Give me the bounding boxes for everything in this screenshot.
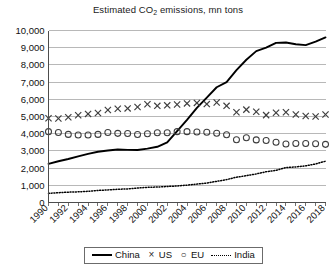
y-axis-tick-labels: 10,0009,0008,0007,0006,0005,0004,0003,00… — [15, 25, 44, 208]
data-point-us — [243, 107, 249, 113]
data-point-us — [65, 114, 71, 120]
data-point-eu — [323, 141, 329, 147]
x-axis-tick-labels: 1990199219941996199820002002200420062008… — [27, 202, 327, 225]
data-point-eu — [154, 130, 160, 136]
legend-item-china[interactable]: China — [92, 250, 140, 260]
x-tick-label: 2008 — [205, 202, 228, 225]
data-point-us — [115, 106, 121, 112]
data-point-eu — [293, 141, 299, 147]
dotted-line-icon — [211, 255, 231, 256]
data-point-eu — [85, 132, 91, 138]
data-series-group — [45, 37, 328, 193]
x-tick-label: 2012 — [245, 202, 268, 225]
x-tick-label: 2004 — [166, 202, 189, 225]
y-tick-label: 8,000 — [21, 59, 45, 70]
legend-item-eu[interactable]: ○ EU — [179, 250, 204, 260]
x-tick-label: 2016 — [284, 202, 307, 225]
x-tick-label: 2000 — [126, 202, 149, 225]
legend-label-india: India — [234, 250, 255, 260]
x-tick-label: 2014 — [265, 202, 288, 225]
data-point-us — [214, 99, 220, 105]
data-point-us — [95, 110, 101, 116]
data-point-eu — [194, 129, 200, 135]
data-point-us — [105, 107, 111, 113]
x-tick-label: 2002 — [146, 202, 169, 225]
data-point-us — [283, 109, 289, 115]
circle-marker-icon: ○ — [179, 250, 188, 260]
data-point-eu — [283, 141, 289, 147]
data-point-eu — [135, 132, 141, 138]
x-marker-icon: × — [147, 250, 156, 260]
y-tick-label: 2,000 — [21, 163, 45, 174]
data-point-us — [253, 109, 259, 115]
data-point-eu — [95, 131, 101, 137]
x-tick-label: 1990 — [27, 202, 50, 225]
chart-legend: China × US ○ EU India — [84, 247, 263, 264]
data-point-us — [75, 112, 81, 118]
data-point-eu — [65, 131, 71, 137]
data-point-eu — [263, 138, 269, 144]
x-tick-label: 2018 — [304, 202, 327, 225]
co2-emissions-chart: Estimated CO2 emissions, mn tons 10,0009… — [0, 0, 336, 279]
legend-label-china: China — [115, 250, 140, 260]
data-point-eu — [233, 137, 239, 143]
data-point-eu — [253, 137, 259, 143]
data-point-us — [144, 101, 150, 107]
data-point-us — [134, 104, 140, 110]
legend-item-india[interactable]: India — [211, 250, 255, 260]
data-point-us — [184, 100, 190, 106]
x-tick-label: 1994 — [67, 202, 90, 225]
data-point-us — [164, 102, 170, 108]
y-tick-label: 4,000 — [21, 128, 45, 139]
data-point-eu — [313, 141, 319, 147]
x-axis-tick-marks — [49, 203, 326, 207]
data-point-us — [223, 103, 229, 109]
y-tick-label: 6,000 — [21, 94, 45, 105]
x-tick-label: 1998 — [106, 202, 129, 225]
x-tick-label: 1996 — [87, 202, 110, 225]
data-point-us — [194, 100, 200, 106]
x-tick-label: 2006 — [185, 202, 208, 225]
data-point-eu — [273, 139, 279, 145]
y-tick-label: 3,000 — [21, 145, 45, 156]
y-tick-label: 9,000 — [21, 42, 45, 53]
x-tick-label: 2010 — [225, 202, 248, 225]
data-point-eu — [55, 129, 61, 135]
data-point-us — [233, 109, 239, 115]
data-point-eu — [164, 130, 170, 136]
legend-label-us: US — [159, 250, 172, 260]
data-point-us — [204, 101, 210, 107]
data-point-eu — [243, 135, 249, 141]
plot-area: 10,0009,0008,0007,0006,0005,0004,0003,00… — [0, 0, 336, 247]
data-point-us — [154, 103, 160, 109]
gridlines — [49, 31, 326, 186]
data-point-us — [303, 113, 309, 119]
data-point-eu — [214, 130, 220, 136]
legend-item-us[interactable]: × US — [147, 250, 172, 260]
data-point-eu — [224, 132, 230, 138]
data-point-eu — [303, 141, 309, 147]
data-point-us — [85, 111, 91, 117]
y-tick-label: 5,000 — [21, 111, 45, 122]
data-point-us — [263, 112, 269, 118]
legend-label-eu: EU — [191, 250, 204, 260]
series-line-india — [49, 161, 326, 193]
y-tick-label: 7,000 — [21, 77, 45, 88]
series-line-china — [49, 37, 326, 163]
data-point-eu — [105, 129, 111, 135]
y-tick-label: 10,000 — [15, 25, 44, 36]
data-point-eu — [204, 129, 210, 135]
data-point-us — [273, 110, 279, 116]
data-point-us — [125, 105, 131, 111]
solid-line-icon — [92, 254, 112, 256]
x-tick-label: 1992 — [47, 202, 70, 225]
data-point-eu — [75, 132, 81, 138]
y-tick-label: 1,000 — [21, 180, 45, 191]
data-point-us — [174, 101, 180, 107]
